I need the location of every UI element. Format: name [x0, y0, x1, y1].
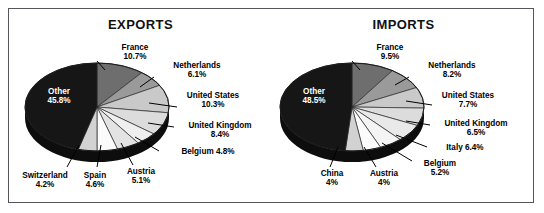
exports-label-netherlands: Netherlands 6.1%: [160, 61, 234, 79]
imports-label-belgium: Belgium 5.2%: [412, 159, 468, 177]
exports-chart-title: EXPORTS: [9, 17, 272, 32]
exports-label-austria: Austria 5.1%: [117, 167, 165, 185]
imports-label-united-kingdom: United Kingdom 6.5%: [426, 119, 526, 137]
exports-label-spain: Spain 4.6%: [73, 171, 117, 189]
imports-pie-wrap: France 9.5% Netherlands 8.2% United Stat…: [272, 35, 535, 200]
imports-label-united-states: United States 7.7%: [424, 91, 512, 109]
exports-panel: EXPORTS France 10.7% Netherlands 6.1% Un…: [9, 9, 272, 202]
exports-label-united-states: United States 10.3%: [169, 91, 257, 109]
exports-label-belgium: Belgium 4.8%: [165, 147, 251, 156]
imports-label-other: Other 48.5%: [286, 87, 342, 105]
exports-label-france: France 10.7%: [105, 43, 165, 61]
exports-label-other: Other 45.8%: [31, 87, 87, 105]
imports-panel: IMPORTS France 9.5% Netherlands 8.2% Uni…: [272, 9, 535, 202]
exports-label-united-kingdom: United Kingdom 8.4%: [171, 121, 269, 139]
imports-label-france: France 9.5%: [360, 43, 420, 61]
imports-label-italy: Italy 6.4%: [430, 143, 500, 152]
exports-pie-wrap: France 10.7% Netherlands 6.1% United Sta…: [9, 35, 272, 200]
imports-label-netherlands: Netherlands 8.2%: [415, 61, 489, 79]
exports-label-switzerland: Switzerland 4.2%: [13, 171, 77, 189]
imports-chart-title: IMPORTS: [272, 17, 535, 32]
imports-label-austria: Austria 4%: [360, 169, 408, 187]
imports-label-china: China 4%: [308, 169, 356, 187]
figure-frame: EXPORTS France 10.7% Netherlands 6.1% Un…: [8, 8, 534, 203]
